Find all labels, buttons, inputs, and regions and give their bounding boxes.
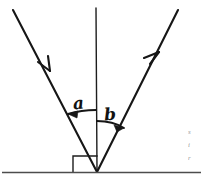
angle-label-a: a [72, 94, 85, 112]
incident-ray [13, 10, 97, 172]
margin-text-line-3: r [188, 152, 203, 165]
margin-text-line-1: s [188, 126, 203, 139]
normal-line [96, 8, 97, 172]
reflection-figure: a b s i r [0, 0, 203, 185]
diagram-canvas [0, 0, 203, 185]
reflected-ray-arrowhead [144, 52, 159, 64]
angle-label-b: b [103, 106, 116, 124]
reflected-ray [97, 10, 178, 172]
margin-text-fragment: s i r [188, 126, 203, 165]
margin-text-line-2: i [188, 139, 203, 152]
